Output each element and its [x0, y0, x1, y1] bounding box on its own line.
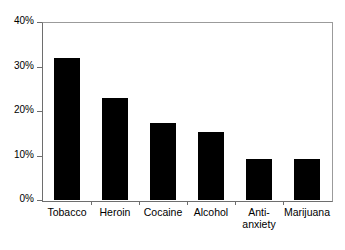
- x-axis-tick-label: Alcohol: [187, 206, 235, 218]
- bar: [54, 58, 80, 200]
- x-axis-tick-label: Marijuana: [283, 206, 331, 218]
- x-axis-tick-mark: [139, 201, 140, 205]
- y-axis: 0%10%20%30%40%: [0, 0, 38, 250]
- x-axis-tick-mark: [187, 201, 188, 205]
- bar-chart-figure: 0%10%20%30%40% TobaccoHeroinCocaineAlcoh…: [0, 0, 345, 250]
- y-axis-tick-label: 10%: [14, 150, 34, 160]
- x-axis-tick-mark: [91, 201, 92, 205]
- x-axis-tick-label: Cocaine: [139, 206, 187, 218]
- bar: [294, 159, 320, 200]
- bar: [198, 132, 224, 200]
- bars-layer: [43, 22, 331, 200]
- bar: [150, 123, 176, 200]
- x-axis-tick-label: Heroin: [91, 206, 139, 218]
- y-axis-tick-label: 30%: [14, 61, 34, 71]
- x-axis-tick-label: Anti- anxiety: [235, 206, 283, 230]
- y-axis-tick-label: 40%: [14, 16, 34, 26]
- x-axis-tick-mark: [283, 201, 284, 205]
- bar: [246, 159, 272, 200]
- x-axis-tick-mark: [235, 201, 236, 205]
- x-axis-tick-label: Tobacco: [43, 206, 91, 218]
- x-axis: TobaccoHeroinCocaineAlcoholAnti- anxiety…: [43, 206, 331, 246]
- y-axis-tick-label: 0%: [20, 194, 34, 204]
- y-axis-tick-label: 20%: [14, 105, 34, 115]
- bar: [102, 98, 128, 200]
